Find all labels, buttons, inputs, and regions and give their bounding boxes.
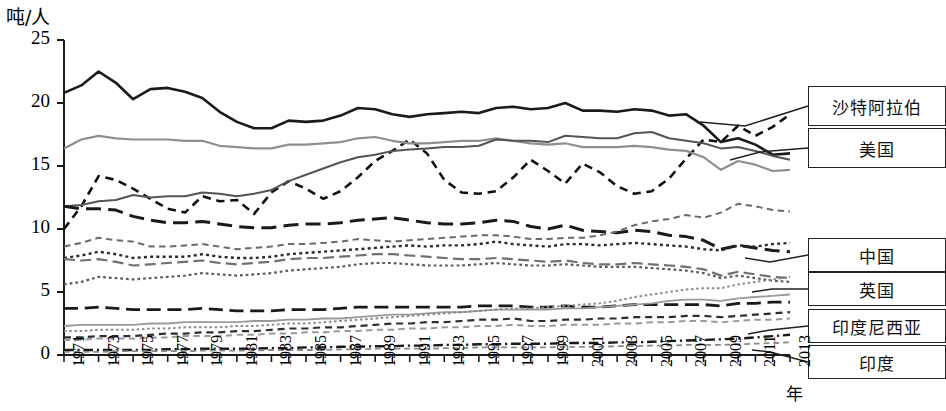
x-axis-tick-label: 1997 xyxy=(519,335,537,367)
legend-item-indonesia[interactable]: 印度尼西亚 xyxy=(808,309,946,343)
legend-leader-line xyxy=(748,326,808,334)
series-line xyxy=(64,114,790,229)
x-axis-tick-label: 1981 xyxy=(243,335,261,367)
y-axis-tick-label: 25 xyxy=(16,27,50,49)
legend-label-usa: 美国 xyxy=(859,136,895,161)
x-axis-tick-label: 2005 xyxy=(658,335,676,367)
legend-label-indonesia: 印度尼西亚 xyxy=(832,314,922,339)
x-axis-tick-label: 2003 xyxy=(623,335,641,367)
series-line xyxy=(64,242,790,258)
x-axis-tick-label: 1991 xyxy=(416,335,434,367)
legend-item-usa[interactable]: 美国 xyxy=(808,128,946,168)
series-line xyxy=(64,312,790,337)
legend-item-saudi-arabia[interactable]: 沙特阿拉伯 xyxy=(808,86,946,126)
x-axis-tick-label: 1977 xyxy=(174,335,192,367)
legend-leader-line xyxy=(700,106,808,126)
legend-item-india[interactable]: 印度 xyxy=(808,345,946,379)
x-axis-tick-label: 2009 xyxy=(727,335,745,367)
y-axis-tick-label: 15 xyxy=(16,153,50,175)
y-axis-tick-label: 5 xyxy=(16,279,50,301)
legend-leader-line xyxy=(752,289,808,292)
x-axis-tick-label: 1999 xyxy=(554,335,572,367)
series-line xyxy=(64,254,790,278)
x-axis-tick-label: 1971 xyxy=(70,335,88,367)
x-axis-unit-label: 年 xyxy=(786,380,803,405)
x-axis-tick-label: 1989 xyxy=(381,335,399,367)
legend-item-uk[interactable]: 英国 xyxy=(808,272,946,306)
x-axis-tick-label: 1985 xyxy=(312,335,330,367)
x-axis-tick-label: 1995 xyxy=(485,335,503,367)
y-axis-tick-label: 0 xyxy=(16,342,50,364)
x-axis-tick-label: 1979 xyxy=(208,335,226,367)
x-axis-tick-label: 1987 xyxy=(347,335,365,367)
x-axis-tick-label: 1975 xyxy=(139,335,157,367)
legend-label-china: 中国 xyxy=(859,243,895,268)
y-axis-tick-label: 10 xyxy=(16,216,50,238)
x-axis-tick-label: 1983 xyxy=(277,335,295,367)
x-axis-tick-label: 2013 xyxy=(796,335,814,367)
legend-label-uk: 英国 xyxy=(859,277,895,302)
x-axis-tick-label: 2007 xyxy=(692,335,710,367)
legend-label-india: 印度 xyxy=(859,350,895,375)
legend-item-china[interactable]: 中国 xyxy=(808,238,946,272)
legend-label-saudi-arabia: 沙特阿拉伯 xyxy=(832,94,922,119)
x-axis-tick-label: 2001 xyxy=(589,335,607,367)
series-line xyxy=(64,206,790,251)
x-axis-tick-label: 2011 xyxy=(761,336,779,367)
legend-leader-line xyxy=(745,255,808,262)
series-line xyxy=(64,302,790,311)
y-axis-tick-label: 20 xyxy=(16,90,50,112)
x-axis-tick-label: 1973 xyxy=(105,335,123,367)
x-axis-tick-label: 1993 xyxy=(450,335,468,367)
